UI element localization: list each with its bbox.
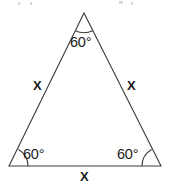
angle-label-apex: 60° [70, 35, 91, 50]
side-label-bottom: X [80, 170, 89, 183]
angle-label-bottom-right: 60° [117, 147, 138, 162]
side-label-left: X [33, 79, 42, 92]
angle-label-bottom-left: 60° [23, 147, 44, 162]
side-label-right: X [127, 79, 136, 92]
triangle-diagram: 60° 60° 60° X X X [0, 0, 170, 186]
